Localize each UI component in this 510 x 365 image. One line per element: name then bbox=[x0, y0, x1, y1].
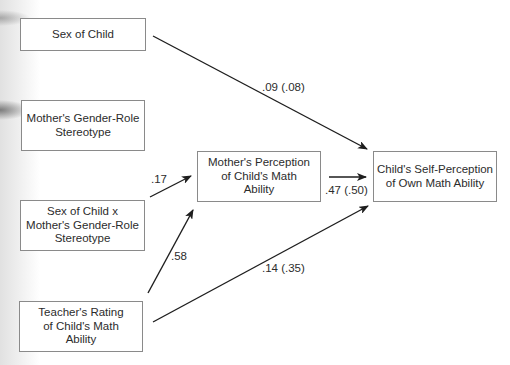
edge-label-mother-to-self: .47 (.50) bbox=[325, 184, 368, 196]
node-mother-gender-role-stereotype: Mother's Gender-Role Stereotype bbox=[21, 100, 145, 151]
node-interaction: Sex of Child x Mother's Gender-Role Ster… bbox=[20, 200, 145, 251]
edge-label-teacher-to-mother: .58 bbox=[171, 250, 187, 262]
node-mother-perception: Mother's Perception of Child's Math Abil… bbox=[197, 151, 321, 202]
edge-label-sex-to-self: .09 (.08) bbox=[262, 81, 305, 93]
edge-label-interaction-to-mother: .17 bbox=[151, 173, 167, 185]
node-label: Mother's Perception of Child's Math Abil… bbox=[208, 156, 310, 197]
arrow-sex-to-self-perception bbox=[153, 36, 367, 149]
node-label: Sex of Child bbox=[52, 28, 114, 42]
node-label: Teacher's Rating of Child's Math Ability bbox=[38, 306, 123, 347]
node-label: Sex of Child x Mother's Gender-Role Ster… bbox=[26, 205, 139, 246]
node-teacher-rating: Teacher's Rating of Child's Math Ability bbox=[19, 301, 143, 352]
node-label: Mother's Gender-Role Stereotype bbox=[27, 112, 140, 139]
node-label: Child's Self-Perception of Own Math Abil… bbox=[377, 163, 493, 190]
edge-label-teacher-to-self: .14 (.35) bbox=[262, 262, 305, 274]
node-sex-of-child: Sex of Child bbox=[20, 18, 146, 51]
node-child-self-perception: Child's Self-Perception of Own Math Abil… bbox=[373, 151, 497, 202]
